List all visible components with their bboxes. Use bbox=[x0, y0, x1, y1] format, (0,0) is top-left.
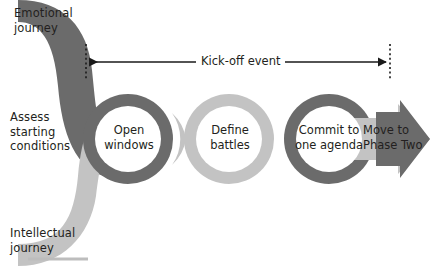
label-emotional-journey: Emotional journey bbox=[14, 6, 73, 35]
journey-diagram: Emotional journey Assess starting condit… bbox=[0, 0, 435, 266]
label-commit-one-agenda: Commit to one agenda bbox=[287, 123, 371, 152]
band-weave-light-1 bbox=[172, 113, 186, 165]
label-intellectual-journey: Intellectual journey bbox=[10, 226, 75, 255]
label-assess-starting-conditions: Assess starting conditions bbox=[10, 110, 70, 154]
label-move-to-phase-two: Move to Phase Two bbox=[363, 123, 431, 152]
label-define-battles: Define battles bbox=[196, 123, 264, 152]
label-kickoff-event: Kick-off event bbox=[196, 54, 285, 68]
label-open-windows: Open windows bbox=[95, 123, 163, 152]
